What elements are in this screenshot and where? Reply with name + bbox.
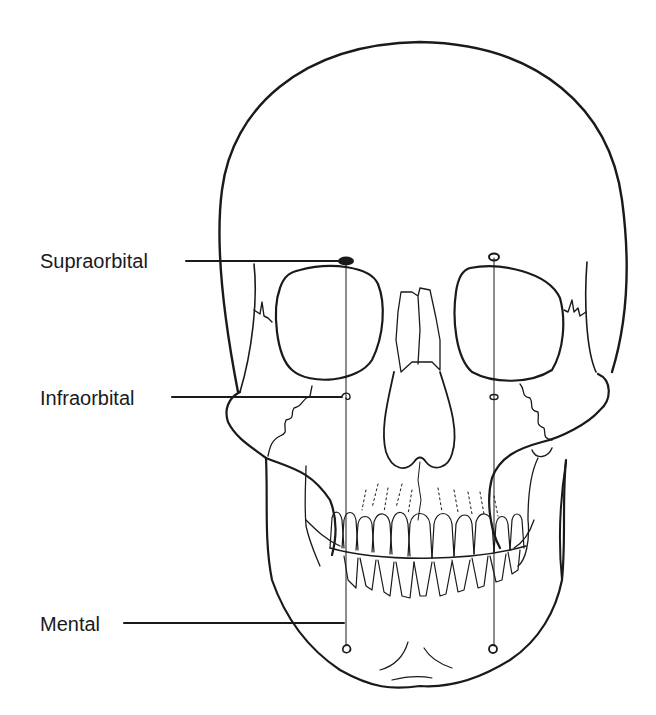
nasal-bones bbox=[396, 288, 440, 372]
chin-line bbox=[392, 677, 432, 680]
mental-protuberance-right bbox=[424, 648, 452, 668]
left-orbit bbox=[276, 266, 383, 380]
upper-teeth bbox=[330, 512, 524, 558]
left-supraorbital-foramen bbox=[339, 258, 353, 265]
right-zygomatic-knob bbox=[532, 448, 552, 457]
occlusal-line bbox=[330, 546, 526, 558]
left-frontozygomatic-suture bbox=[254, 302, 272, 322]
label-supraorbital: Supraorbital bbox=[40, 251, 148, 271]
skull-illustration bbox=[0, 0, 656, 715]
cranium-outline bbox=[219, 42, 626, 392]
right-temporal-line bbox=[586, 262, 596, 372]
mental-protuberance-left bbox=[380, 642, 408, 670]
right-mental-foramen bbox=[489, 645, 497, 653]
right-frontozygomatic-suture bbox=[564, 300, 586, 316]
skull-diagram: Supraorbital Infraorbital Mental bbox=[0, 0, 656, 715]
alveolar-marks bbox=[362, 484, 498, 516]
label-infraorbital: Infraorbital bbox=[40, 388, 135, 408]
left-temporal-line bbox=[240, 264, 255, 392]
label-mental: Mental bbox=[40, 614, 100, 634]
nasal-septum bbox=[418, 462, 421, 520]
right-orbit bbox=[455, 266, 564, 380]
left-zygoma bbox=[227, 392, 336, 555]
right-ramus-inner bbox=[518, 458, 538, 566]
right-zygomaticomaxillary-suture bbox=[520, 384, 552, 440]
left-mental-foramen bbox=[343, 645, 351, 653]
nasal-aperture bbox=[384, 372, 455, 468]
